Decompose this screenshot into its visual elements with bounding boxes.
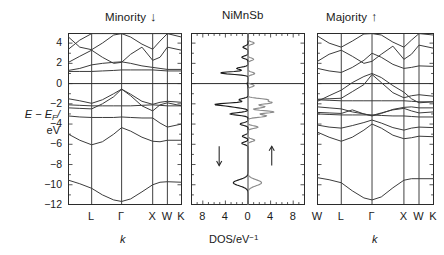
left-panel-title-text: Minority — [105, 11, 146, 23]
band-curve — [69, 180, 182, 201]
k-tick-label: K — [421, 210, 444, 222]
right-panel-title: Majority↑ — [326, 9, 378, 24]
band-curve — [69, 89, 182, 104]
down-arrow-icon: ↓ — [146, 9, 157, 24]
band-curve — [318, 34, 434, 48]
dos-plot — [191, 33, 305, 205]
y-tick-label: −6 — [24, 137, 62, 149]
majority-band-plot — [317, 33, 434, 205]
dos-tick-label: 0 — [236, 210, 260, 222]
up-arrow-icon: ↑ — [367, 9, 378, 24]
dos-tick-label: 4 — [258, 210, 282, 222]
dos-majority-arrow-icon — [269, 146, 274, 165]
y-tick-label: −10 — [24, 178, 62, 190]
y-tick-label: −8 — [24, 158, 62, 170]
y-tick-label: −4 — [24, 117, 62, 129]
dos-tick-label: 4 — [213, 210, 237, 222]
right-panel-title-text: Majority — [326, 11, 367, 23]
k-tick-label: L — [79, 210, 103, 222]
y-tick-label: 0 — [24, 77, 62, 89]
band-curve — [69, 47, 182, 63]
band-curve — [69, 105, 182, 106]
y-tick-label: 2 — [24, 56, 62, 68]
band-curve — [318, 53, 434, 72]
dos-curve-majority — [248, 33, 274, 205]
dos-minority-arrow-icon — [217, 146, 222, 165]
dos-tick-label: 8 — [190, 210, 214, 222]
k-tick-label: W — [305, 210, 329, 222]
panel-minority-band-structure — [68, 33, 182, 205]
dos-x-axis-label-exp: −1 — [249, 233, 258, 242]
dos-tick-label: 8 — [281, 210, 305, 222]
band-curve — [69, 116, 182, 127]
band-curve — [318, 124, 434, 141]
panel-majority-band-structure — [317, 33, 434, 205]
band-curve — [69, 70, 182, 72]
y-tick-label: −12 — [24, 198, 62, 210]
band-curve — [318, 178, 434, 200]
k-tick-label: Γ — [360, 210, 384, 222]
panel-density-of-states — [191, 33, 305, 205]
y-tick-label: 4 — [24, 36, 62, 48]
k-tick-label: L — [329, 210, 353, 222]
center-panel-title: NiMnSb — [222, 9, 264, 21]
y-tick-label: −2 — [24, 97, 62, 109]
band-curve — [69, 34, 182, 50]
minority-band-plot — [68, 33, 182, 205]
dos-x-axis-label-main: DOS/eV — [209, 233, 249, 245]
left-panel-title: Minority↓ — [105, 9, 157, 24]
right-x-axis-label: k — [372, 233, 378, 245]
figure-nimnsb: Minority↓ NiMnSb Majority↑ E − EF/ eV 42… — [0, 0, 444, 255]
band-curve — [69, 62, 182, 71]
k-tick-label: Γ — [109, 210, 133, 222]
band-curve — [69, 89, 182, 111]
dos-x-axis-label: DOS/eV−1 — [209, 233, 258, 245]
band-curve — [69, 128, 182, 145]
band-curve — [318, 74, 434, 99]
left-x-axis-label: k — [120, 233, 126, 245]
dos-curve-minority — [215, 33, 248, 205]
